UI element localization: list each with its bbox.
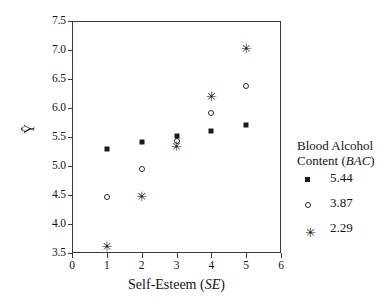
x-axis-label-italic: SE [205,277,221,292]
legend-entry: ✳2.29 [297,218,387,243]
legend-title-line2-italic: BAC [346,153,371,168]
legend-title-line2: Content (BAC) [297,153,387,168]
x-tick-label: 0 [62,259,82,271]
marker-open-circle-icon [305,202,311,208]
y-tick-label: 6.5 [26,73,66,85]
y-tick-label: 4.0 [26,218,66,230]
legend: Blood Alcohol Content (BAC) 5.443.87✳2.2… [297,138,387,243]
marker-open-circle-icon [208,110,214,116]
x-axis-label-paren-close: ) [220,277,225,292]
y-tick-label: 3.5 [26,247,66,259]
scatter-plot-figure: 3.54.04.55.05.56.06.57.07.5 0123456 ✳✳✳✳… [0,0,388,308]
y-tick-mark [68,50,73,51]
y-tick-mark [68,224,73,225]
x-tick-label: 3 [167,259,187,271]
marker-asterisk-icon: ✳ [305,227,316,238]
legend-swatch [305,177,310,182]
y-tick-mark [68,195,73,196]
legend-title: Blood Alcohol Content (BAC) [297,138,387,168]
legend-entry: 3.87 [297,193,387,218]
y-tick-label: 7.5 [26,15,66,27]
x-tick-mark [107,253,108,258]
marker-filled-square-icon [104,146,109,151]
y-tick-mark [68,108,73,109]
y-axis-label-text: Ŷ [22,124,37,134]
legend-entry-label: 5.44 [330,170,353,185]
x-axis-label-paren-open: ( [197,277,205,292]
legend-entry-label: 3.87 [330,195,353,210]
marker-asterisk-icon: ✳ [241,42,252,53]
legend-title-line2-close: ) [370,153,374,168]
legend-entries: 5.443.87✳2.29 [297,168,387,243]
marker-asterisk-icon: ✳ [136,190,147,201]
y-tick-mark [68,166,73,167]
marker-filled-square-icon [209,128,214,133]
x-tick-mark [281,253,282,258]
x-tick-label: 6 [271,259,291,271]
x-tick-label: 1 [97,259,117,271]
marker-open-circle-icon [104,194,110,200]
x-axis-label: Self-Esteem (SE) [72,277,281,293]
marker-asterisk-icon: ✳ [101,241,112,252]
x-tick-mark [142,253,143,258]
y-tick-mark [68,21,73,22]
y-tick-label: 4.5 [26,189,66,201]
y-tick-label: 7.0 [26,44,66,56]
legend-swatch: ✳ [305,227,316,238]
x-tick-mark [177,253,178,258]
legend-swatch [305,202,311,208]
marker-filled-square-icon [244,122,249,127]
x-tick-label: 2 [132,259,152,271]
y-tick-label: 5.0 [26,160,66,172]
legend-title-line2-plain: Content ( [297,153,346,168]
y-tick-mark [68,137,73,138]
legend-entry: 5.44 [297,168,387,193]
legend-entry-label: 2.29 [330,220,353,235]
marker-open-circle-icon [139,166,145,172]
x-tick-label: 4 [201,259,221,271]
x-tick-label: 5 [236,259,256,271]
legend-title-line1: Blood Alcohol [297,138,387,153]
marker-filled-square-icon [139,140,144,145]
x-tick-mark [211,253,212,258]
x-tick-mark [246,253,247,258]
marker-asterisk-icon: ✳ [206,90,217,101]
marker-filled-square-icon [305,177,310,182]
marker-asterisk-icon: ✳ [171,140,182,151]
marker-open-circle-icon [243,83,249,89]
x-axis-label-text: Self-Esteem [128,277,196,292]
x-tick-mark [72,253,73,258]
y-tick-mark [68,79,73,80]
y-axis-label: Ŷ [22,112,38,146]
